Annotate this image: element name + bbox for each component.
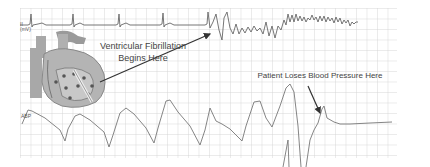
bp-loss-annotation: Patient Loses Blood Pressure Here <box>250 70 390 82</box>
ecg-lead-label: II (mV) <box>20 22 31 32</box>
pressure-lead-label: ABP <box>21 114 31 119</box>
annotation-arrows <box>0 0 430 167</box>
vfib-annotation: Ventricular Fibrillation Begins Here <box>88 40 198 64</box>
ecg-diagram: II (mV) ABP Ventricular Fibrillation Beg… <box>0 0 430 167</box>
bp-loss-arrow <box>308 86 320 113</box>
